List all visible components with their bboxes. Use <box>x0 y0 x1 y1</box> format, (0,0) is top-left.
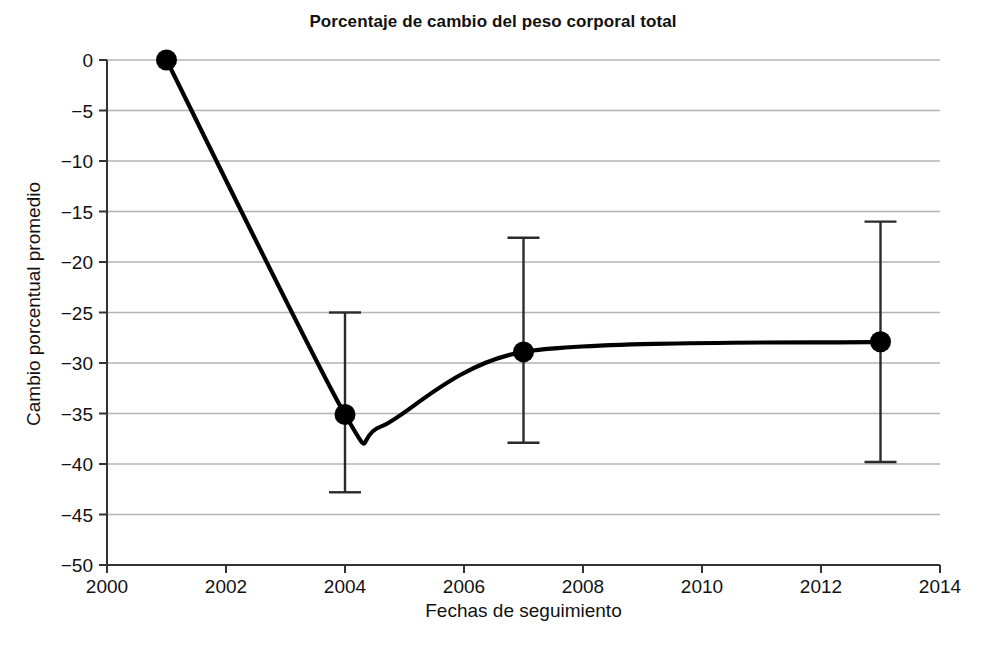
y-axis-ticks: 0−5−10−15−20−25−30−35−40−45−50 <box>61 50 107 576</box>
y-tick-label: −35 <box>61 404 93 425</box>
x-tick-label: 2010 <box>681 576 723 597</box>
y-tick-label: −40 <box>61 454 93 475</box>
plot-area: 0−5−10−15−20−25−30−35−40−45−50 200020022… <box>0 0 986 650</box>
data-point-marker <box>335 404 356 425</box>
x-tick-label: 2014 <box>919 576 962 597</box>
y-tick-label: −45 <box>61 505 93 526</box>
y-tick-label: −20 <box>61 252 93 273</box>
x-tick-label: 2004 <box>324 576 367 597</box>
x-tick-label: 2002 <box>205 576 247 597</box>
x-axis-ticks: 20002002200420062008201020122014 <box>86 565 962 597</box>
y-tick-label: 0 <box>82 50 93 71</box>
y-tick-label: −5 <box>71 101 93 122</box>
chart-figure: Porcentaje de cambio del peso corporal t… <box>0 0 986 650</box>
y-tick-label: −25 <box>61 303 93 324</box>
y-tick-label: −15 <box>61 202 93 223</box>
data-point-marker <box>870 331 891 352</box>
error-bar <box>508 238 540 443</box>
data-point-marker <box>513 341 534 362</box>
x-tick-label: 2012 <box>800 576 842 597</box>
data-point-marker <box>156 50 177 71</box>
y-tick-label: −30 <box>61 353 93 374</box>
error-bar <box>329 313 361 493</box>
x-tick-label: 2000 <box>86 576 128 597</box>
x-tick-label: 2006 <box>443 576 485 597</box>
x-tick-label: 2008 <box>562 576 604 597</box>
y-tick-label: −50 <box>61 555 93 576</box>
y-tick-label: −10 <box>61 151 93 172</box>
